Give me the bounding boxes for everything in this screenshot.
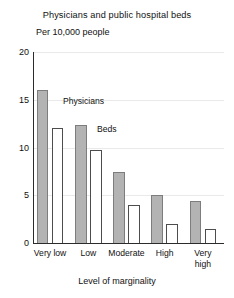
bar-low-physicians xyxy=(75,125,87,243)
x-tick-label: Very low xyxy=(34,248,66,259)
y-tick-label: 5 xyxy=(24,190,29,200)
x-tick-label: High xyxy=(156,248,174,259)
y-tick-label: 10 xyxy=(19,143,29,153)
y-tick-label: 15 xyxy=(19,95,29,105)
bar-very-low-beds xyxy=(52,128,64,243)
x-tick-label: Very high xyxy=(194,248,211,269)
bar-moderate-beds xyxy=(128,205,140,243)
bar-very-low-physicians xyxy=(37,90,49,243)
series-label-beds: Beds xyxy=(97,124,117,134)
series-label-physicians: Physicians xyxy=(63,96,104,106)
y-tick-label: 20 xyxy=(19,47,29,57)
bar-very-high-beds xyxy=(205,229,217,243)
bar-very-high-physicians xyxy=(190,201,202,243)
y-axis-unit-label: Per 10,000 people xyxy=(36,27,110,37)
bar-low-beds xyxy=(90,150,102,243)
plot-area: 05101520 PhysiciansBeds Very lowLowModer… xyxy=(33,52,224,243)
x-tick-label: Low xyxy=(80,248,96,259)
bar-high-beds xyxy=(166,224,178,243)
x-axis-line xyxy=(33,243,224,244)
gridline xyxy=(34,52,224,53)
chart-container: Physicians and public hospital beds Per … xyxy=(0,0,234,298)
chart-title: Physicians and public hospital beds xyxy=(0,10,234,20)
bar-moderate-physicians xyxy=(113,172,125,243)
y-tick-label: 0 xyxy=(24,238,29,248)
bar-high-physicians xyxy=(151,195,163,243)
x-axis-title: Level of marginality xyxy=(0,276,234,286)
x-tick-label: Moderate xyxy=(108,248,144,259)
